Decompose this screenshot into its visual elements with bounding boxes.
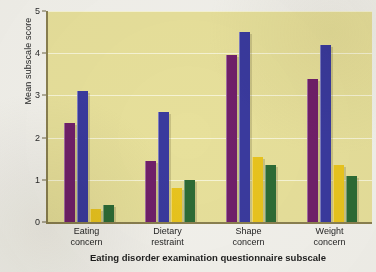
- plot-inner: [48, 11, 372, 222]
- y-tick-label: 1: [12, 175, 40, 185]
- bar: [103, 205, 114, 222]
- x-tick-label: Shapeconcern: [204, 226, 294, 248]
- y-tick-label: 2: [12, 133, 40, 143]
- x-axis-title: Eating disorder examination questionnair…: [46, 252, 370, 263]
- bar: [158, 112, 169, 222]
- bar: [64, 123, 75, 222]
- x-tick-label: Weightconcern: [285, 226, 375, 248]
- bar: [226, 55, 237, 222]
- x-axis-category-labels: EatingconcernDietaryrestraintShapeconcer…: [46, 226, 370, 252]
- y-tick-label: 4: [12, 48, 40, 58]
- bar: [145, 161, 156, 222]
- bar-group: [210, 32, 291, 222]
- bar-group: [129, 112, 210, 222]
- bar: [346, 176, 357, 222]
- y-axis-ticks: 012345: [0, 11, 46, 222]
- bar: [320, 45, 331, 222]
- y-tick-label: 0: [12, 217, 40, 227]
- x-tick-label: Eatingconcern: [42, 226, 132, 248]
- bar: [239, 32, 250, 222]
- bar: [333, 165, 344, 222]
- y-tick-label: 3: [12, 90, 40, 100]
- bar: [171, 188, 182, 222]
- bar: [307, 79, 318, 222]
- bar: [77, 91, 88, 222]
- bar: [252, 157, 263, 222]
- bar-chart: Mean subscale score 012345 Eatingconcern…: [0, 0, 376, 272]
- bar: [184, 180, 195, 222]
- bar-group: [291, 45, 372, 222]
- bar: [90, 209, 101, 222]
- y-tick-label: 5: [12, 6, 40, 16]
- bar-group: [48, 91, 129, 222]
- plot-area: [46, 11, 372, 224]
- x-tick-label: Dietaryrestraint: [123, 226, 213, 248]
- gridline: [48, 11, 372, 12]
- bar: [265, 165, 276, 222]
